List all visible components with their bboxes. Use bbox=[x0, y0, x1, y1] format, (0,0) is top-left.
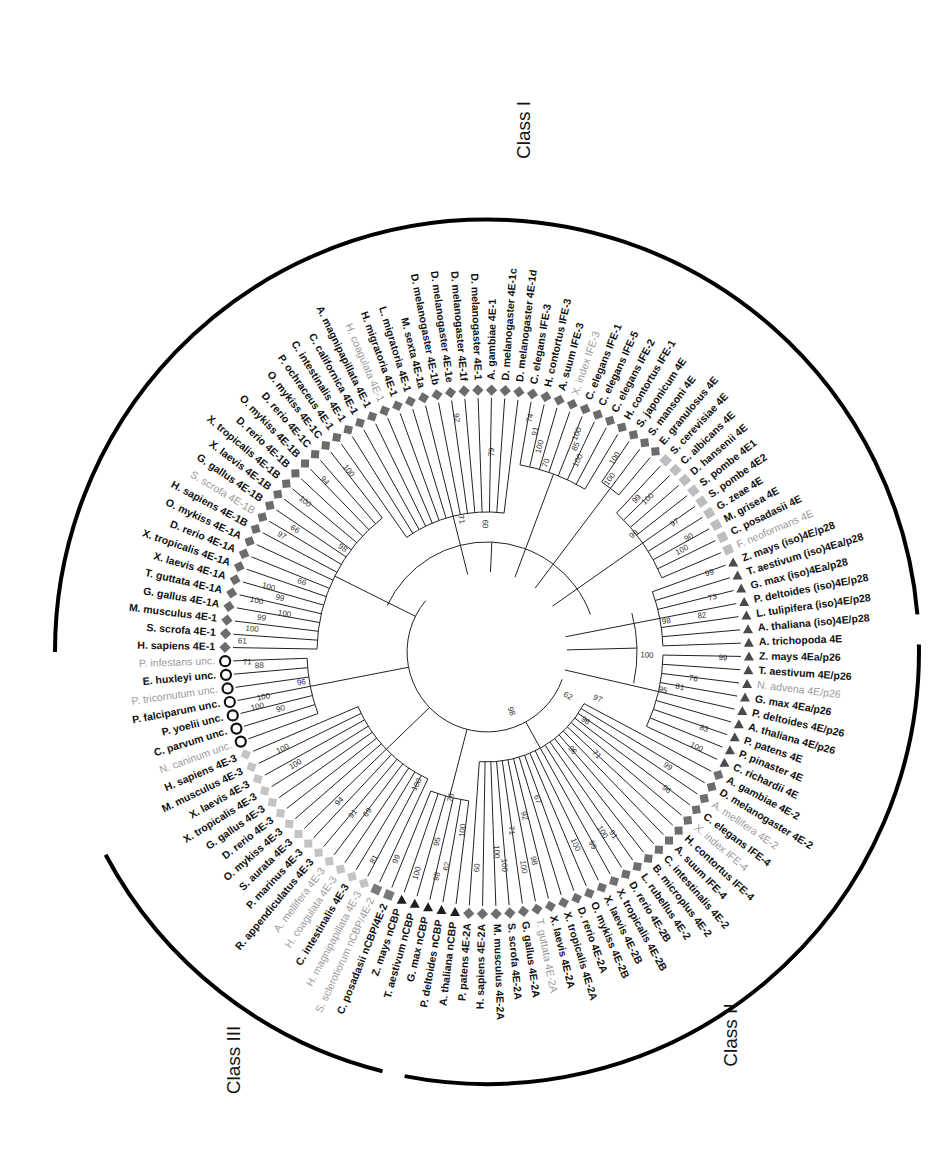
triangle-marker-icon bbox=[736, 584, 746, 593]
leaf-branch bbox=[504, 400, 518, 513]
leaf-label: H. sapiens 4E-2A bbox=[474, 923, 487, 1009]
diamond-marker-icon bbox=[463, 908, 474, 919]
bootstrap-value: 79 bbox=[487, 447, 496, 457]
diamond-marker-icon bbox=[486, 384, 497, 395]
bootstrap-value: 100 bbox=[245, 624, 260, 634]
diamond-marker-icon bbox=[580, 404, 590, 414]
leaf-node: S. scrofa 4E-1 bbox=[146, 621, 231, 639]
bootstrap-value: 81 bbox=[675, 682, 686, 693]
diamond-marker-icon bbox=[405, 396, 416, 407]
leaf-branch bbox=[301, 479, 362, 536]
leaf-branch bbox=[653, 709, 727, 734]
leaf-branch bbox=[269, 521, 341, 564]
diamond-marker-icon bbox=[605, 416, 615, 426]
diamond-marker-icon bbox=[584, 888, 594, 898]
diamond-marker-icon bbox=[244, 536, 254, 546]
clade-stem bbox=[526, 722, 541, 748]
leaf-branch bbox=[388, 418, 433, 523]
triangle-marker-icon bbox=[741, 611, 751, 620]
leaf-branch bbox=[655, 578, 730, 601]
bootstrap-value: 98 bbox=[431, 871, 442, 882]
triangle-marker-icon bbox=[719, 758, 729, 767]
clade-stem bbox=[386, 708, 429, 750]
diamond-marker-icon bbox=[332, 433, 341, 442]
diamond-marker-icon bbox=[265, 501, 274, 510]
leaf-branch bbox=[656, 701, 731, 722]
leaf-node: H. sapiens 4E-2A bbox=[474, 908, 489, 1009]
clade-stem bbox=[566, 618, 660, 636]
leaf-label: D. melanogaster 4E-1 bbox=[469, 273, 485, 380]
diamond-marker-icon bbox=[251, 524, 261, 534]
bootstrap-value: 91 bbox=[347, 807, 360, 820]
diamond-marker-icon bbox=[301, 459, 309, 467]
bootstrap-value: 90 bbox=[275, 703, 287, 714]
bootstrap-value: 96 bbox=[579, 714, 592, 727]
bootstrap-value: 90 bbox=[683, 531, 696, 543]
diamond-marker-icon bbox=[644, 854, 653, 863]
triangle-marker-icon bbox=[423, 902, 433, 911]
diamond-marker-icon bbox=[500, 385, 511, 396]
bootstrap-value: 98 bbox=[661, 616, 672, 626]
leaf-branch bbox=[663, 655, 741, 656]
tree-branches bbox=[233, 398, 741, 906]
diamond-marker-icon bbox=[343, 425, 353, 435]
square-marker-icon bbox=[695, 495, 708, 508]
diamond-marker-icon bbox=[241, 749, 251, 759]
diamond-marker-icon bbox=[621, 869, 631, 879]
diamond-marker-icon bbox=[609, 876, 619, 886]
bootstrap-value: 60 bbox=[472, 863, 481, 873]
leaf-branch bbox=[663, 664, 741, 669]
diamond-marker-icon bbox=[445, 387, 456, 398]
bootstrap-value: 73 bbox=[707, 592, 718, 603]
leaf-branch bbox=[469, 762, 479, 906]
bootstrap-value: 92 bbox=[519, 811, 530, 822]
bootstrap-value: 61 bbox=[238, 636, 248, 645]
diamond-marker-icon bbox=[314, 848, 323, 857]
square-marker-icon bbox=[722, 544, 734, 556]
bootstrap-value: 99 bbox=[627, 528, 640, 541]
leaf-branch bbox=[581, 709, 704, 783]
leaf-label: A. trichopoda 4E bbox=[759, 632, 843, 647]
square-marker-icon bbox=[716, 531, 728, 543]
diamond-marker-icon bbox=[665, 836, 673, 844]
triangle-marker-icon bbox=[450, 907, 460, 916]
bootstrap-value: 99 bbox=[704, 567, 716, 579]
diamond-marker-icon bbox=[253, 774, 263, 784]
diamond-marker-icon bbox=[713, 770, 723, 780]
clade-stem bbox=[515, 474, 554, 577]
leaf-node: A. trichopoda 4E bbox=[744, 632, 843, 647]
circle-marker-icon bbox=[231, 724, 241, 734]
diamond-marker-icon bbox=[651, 447, 660, 456]
leaf-branch bbox=[584, 704, 711, 772]
diamond-marker-icon bbox=[431, 389, 442, 400]
leaf-label: M. musculus 4E-2A bbox=[492, 924, 507, 1021]
diamond-marker-icon bbox=[246, 762, 256, 772]
bootstrap-value: 74 bbox=[525, 412, 536, 423]
diamond-marker-icon bbox=[291, 469, 299, 477]
diamond-marker-icon bbox=[629, 430, 638, 439]
diamond-marker-icon bbox=[692, 805, 701, 814]
diamond-marker-icon bbox=[527, 388, 538, 399]
bootstrap-value: 100 bbox=[569, 837, 583, 853]
diamond-marker-icon bbox=[234, 561, 245, 572]
phylogenetic-tree: H. sapiens 4E-1S. scrofa 4E-1M. musculus… bbox=[0, 0, 937, 1163]
clade-arc-root-ring bbox=[407, 601, 562, 732]
leaf-label: Z. mays 4Ea/p26 bbox=[759, 650, 841, 663]
class-label-I: Class I bbox=[513, 101, 534, 159]
leaf-node: D. melanogaster 4E-1 bbox=[469, 273, 485, 396]
diamond-marker-icon bbox=[531, 904, 542, 915]
bootstrap-value: 88 bbox=[255, 661, 265, 671]
triangle-marker-icon bbox=[742, 679, 752, 688]
bootstrap-value: 100 bbox=[518, 860, 529, 875]
clade-stem bbox=[335, 576, 416, 616]
diamond-marker-icon bbox=[347, 872, 357, 882]
bootstrap-value: 100 bbox=[457, 823, 468, 838]
diamond-marker-icon bbox=[219, 642, 230, 653]
bootstrap-value: 71 bbox=[456, 514, 467, 525]
diamond-marker-icon bbox=[304, 839, 312, 847]
clade-stem bbox=[449, 729, 467, 797]
bootstrap-value: 100 bbox=[410, 776, 424, 792]
triangle-marker-icon bbox=[730, 732, 740, 741]
leaf-node: M. musculus 4E-2A bbox=[490, 908, 507, 1020]
leaf-branch bbox=[248, 714, 318, 739]
